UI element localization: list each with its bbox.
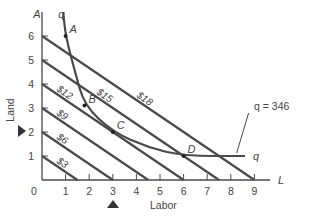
x-tick-label: 1	[63, 185, 69, 197]
x-axis-title: Labor	[150, 199, 177, 211]
isoquant-curve	[63, 12, 245, 156]
x-tick-label: 4	[133, 185, 139, 197]
x-tick-label: 7	[204, 185, 210, 197]
point-marker	[111, 130, 115, 134]
isoquant-isocost-chart: AL0123456789123456LandLabor$3$6$9$12$15$…	[0, 0, 309, 221]
isocost-label: $6	[54, 130, 71, 146]
x-tick-label: 2	[86, 185, 92, 197]
x-tick-label: 0	[31, 185, 37, 197]
y-axis-title: Land	[4, 98, 16, 122]
point-marker	[64, 34, 68, 38]
isocost-label: $3	[54, 154, 71, 170]
x-tick-label: 9	[251, 185, 257, 197]
up-triangle-marker-icon	[107, 200, 119, 208]
point-label: D	[188, 143, 196, 155]
x-tick-label: 5	[157, 185, 163, 197]
point-marker	[82, 104, 86, 108]
y-axis-end-label: A	[32, 8, 40, 20]
isocost-line	[42, 36, 254, 180]
isoquant-start-label: q	[58, 8, 65, 20]
y-tick-label: 6	[28, 30, 34, 42]
point-marker	[182, 154, 186, 158]
isocost-label: $9	[54, 106, 71, 122]
isoquant-value-label: q = 346	[254, 100, 289, 112]
annotation-leader-line	[237, 113, 249, 153]
x-axis-end-label: L	[278, 174, 284, 186]
y-tick-label: 5	[28, 54, 34, 66]
chart-svg: AL0123456789123456LandLabor$3$6$9$12$15$…	[0, 0, 309, 221]
right-triangle-marker-icon	[18, 125, 26, 137]
x-tick-label: 6	[181, 185, 187, 197]
x-tick-label: 3	[110, 185, 116, 197]
y-tick-label: 1	[28, 150, 34, 162]
x-tick-label: 8	[228, 185, 234, 197]
y-tick-label: 3	[28, 102, 34, 114]
point-label: A	[69, 23, 77, 35]
point-label: B	[88, 93, 95, 105]
isocost-line	[42, 132, 113, 180]
y-tick-label: 4	[28, 78, 34, 90]
y-tick-label: 2	[28, 126, 34, 138]
point-label: C	[117, 119, 125, 131]
isoquant-end-label: q	[253, 150, 260, 162]
